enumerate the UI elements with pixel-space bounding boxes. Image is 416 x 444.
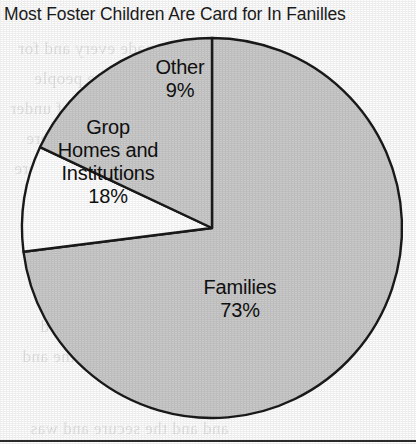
slice-label-other-name: Other <box>155 56 204 78</box>
slice-label-group-homes: Grop Homes and Institutions 18% <box>28 116 188 208</box>
slice-label-group-line1: Grop <box>86 116 130 138</box>
slice-label-other-percent: 9% <box>128 79 232 102</box>
slice-label-group-percent: 18% <box>28 185 188 208</box>
bottom-divider-rule <box>0 440 416 442</box>
slice-label-group-line2: Homes and <box>58 139 158 161</box>
slice-label-group-line3: Institutions <box>61 162 154 184</box>
pie-chart-figure: any are made every and for involved in w… <box>0 0 416 444</box>
slice-label-other: Other 9% <box>128 56 232 102</box>
slice-label-families: Families 73% <box>162 276 318 322</box>
slice-label-families-percent: 73% <box>162 299 318 322</box>
slice-label-families-name: Families <box>204 276 277 298</box>
